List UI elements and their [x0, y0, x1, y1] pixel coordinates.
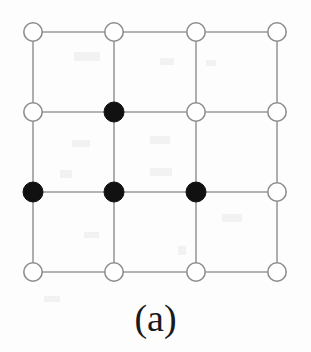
- lattice-node-open: [187, 103, 205, 121]
- edges-layer: [33, 32, 277, 272]
- nodes-layer: [23, 23, 286, 281]
- lattice-node-open: [268, 183, 286, 201]
- lattice-node-open: [105, 23, 123, 41]
- figure-caption: (a): [0, 296, 311, 340]
- lattice-node-open: [105, 263, 123, 281]
- lattice-node-filled: [104, 182, 124, 202]
- lattice-node-open: [24, 103, 42, 121]
- lattice-node-open: [187, 23, 205, 41]
- lattice-node-open: [187, 263, 205, 281]
- lattice-node-open: [268, 103, 286, 121]
- lattice-node-filled: [104, 102, 124, 122]
- lattice-node-open: [24, 23, 42, 41]
- figure-container: (a): [0, 0, 311, 352]
- lattice-node-open: [24, 263, 42, 281]
- lattice-node-filled: [23, 182, 43, 202]
- lattice-node-filled: [186, 182, 206, 202]
- lattice-node-open: [268, 23, 286, 41]
- lattice-node-open: [268, 263, 286, 281]
